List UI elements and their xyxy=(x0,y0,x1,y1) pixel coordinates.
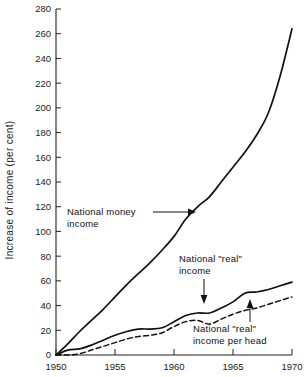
annotation-money-income-line1: National money xyxy=(67,206,136,217)
chart-container: Increase of income (per cent) 0204060801… xyxy=(0,0,307,377)
y-axis-title: Increase of income (per cent) xyxy=(4,121,15,260)
y-tick-label: 260 xyxy=(35,28,51,39)
y-tick-label: 140 xyxy=(35,176,51,187)
x-tick-label: 1950 xyxy=(45,361,66,372)
y-tick-label: 220 xyxy=(35,78,51,89)
y-tick-label: 60 xyxy=(40,275,51,286)
y-axis-title-text: Increase of income (per cent) xyxy=(4,121,15,260)
annotation-money-income-line2: income xyxy=(67,218,99,229)
y-tick-label: 240 xyxy=(35,53,51,64)
y-tick-label: 100 xyxy=(35,226,51,237)
x-tick-label: 1960 xyxy=(163,361,184,372)
annotation-per-head-line2: income per head xyxy=(193,335,267,346)
annotation-real-income-line2: income xyxy=(179,265,211,276)
y-tick-label: 20 xyxy=(40,325,51,336)
x-tick-label: 1970 xyxy=(281,361,302,372)
annotation-real-income-line1: National "real" xyxy=(179,253,242,264)
y-tick-label: 160 xyxy=(35,152,51,163)
income-increase-line-chart: Increase of income (per cent) 0204060801… xyxy=(0,0,307,377)
y-tick-label: 180 xyxy=(35,127,51,138)
x-tick-label: 1955 xyxy=(104,361,125,372)
x-tick-label: 1965 xyxy=(222,361,243,372)
y-tick-label: 0 xyxy=(46,349,51,360)
y-tick-label: 120 xyxy=(35,201,51,212)
y-tick-label: 40 xyxy=(40,300,51,311)
annotation-per-head-line1: National "real" xyxy=(193,323,256,334)
y-tick-label: 200 xyxy=(35,102,51,113)
y-tick-label: 280 xyxy=(35,3,51,14)
y-tick-label: 80 xyxy=(40,251,51,262)
